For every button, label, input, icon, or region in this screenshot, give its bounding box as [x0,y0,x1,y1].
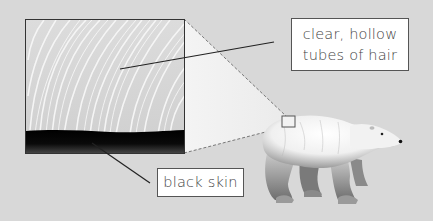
skin-layer [26,130,184,153]
diagram-canvas: clear, hollow tubes of hair black skin [0,0,433,221]
polar-bear-illustration [263,115,403,204]
hair-label: clear, hollow tubes of hair [291,18,409,71]
hair-label-line2: tubes of hair [292,45,408,66]
magnified-inset [26,20,187,154]
skin-label-text: black skin [163,174,237,190]
skin-label: black skin [157,168,244,197]
hair-label-line1: clear, hollow [292,24,408,45]
magnified-area-marker [282,116,295,127]
